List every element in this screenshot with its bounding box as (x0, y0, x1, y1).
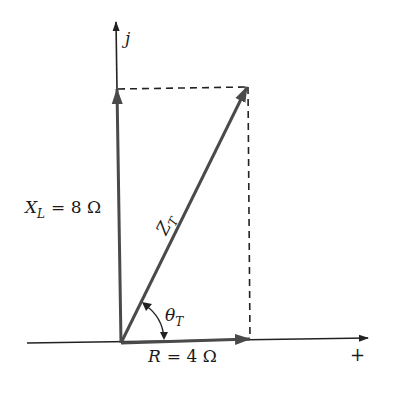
zt-vector (121, 87, 247, 343)
zt-label: ZT (151, 210, 181, 240)
dashed-vertical (248, 87, 250, 339)
xl-label: XL= 8 Ω (23, 197, 101, 221)
angle-label: θT (165, 305, 184, 329)
impedance-diagram: j + XL= 8 Ω R= 4 Ω ZT θT (0, 0, 394, 393)
diagram-svg: j + XL= 8 Ω R= 4 Ω ZT θT (0, 0, 394, 393)
dashed-horizontal (118, 87, 246, 89)
imaginary-axis-label: j (121, 28, 131, 48)
xl-vector (117, 89, 121, 343)
real-axis-label: + (350, 344, 365, 365)
angle-arc-arrow-bottom (160, 332, 168, 340)
imaginary-axis (116, 22, 117, 90)
r-label: R= 4 Ω (147, 346, 217, 366)
svg-text:ZT: ZT (151, 210, 181, 240)
r-vector (121, 339, 250, 343)
